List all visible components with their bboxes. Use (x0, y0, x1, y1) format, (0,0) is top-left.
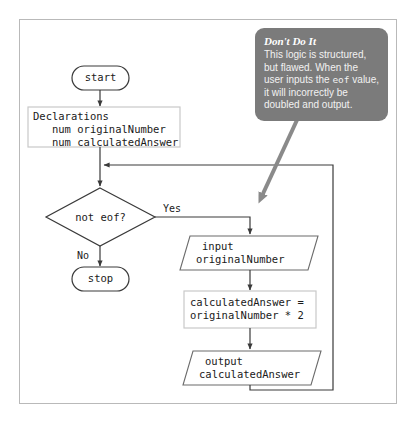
callout-box: Don't Do It This logic is structured, bu… (255, 28, 388, 121)
calculate-box-shape (184, 291, 316, 328)
input-parallelogram-shape (180, 236, 318, 270)
declarations-box-shape (28, 107, 180, 147)
decision-diamond-shape (46, 188, 155, 246)
yes-branch-label: Yes (163, 203, 181, 214)
stop-terminator-shape (72, 267, 129, 291)
callout-title: Don't Do It (264, 35, 379, 48)
flowchart-page: start Declarations num originalNumber nu… (0, 0, 411, 422)
no-branch-label: No (77, 250, 89, 261)
callout-pointer-arrow (261, 120, 297, 198)
callout-body-code: eof (332, 74, 349, 85)
output-parallelogram-shape (183, 351, 321, 385)
start-terminator-shape (72, 66, 129, 90)
callout-body: This logic is structured, but flawed. Wh… (264, 49, 379, 112)
edge-yes-to-input (155, 217, 250, 234)
